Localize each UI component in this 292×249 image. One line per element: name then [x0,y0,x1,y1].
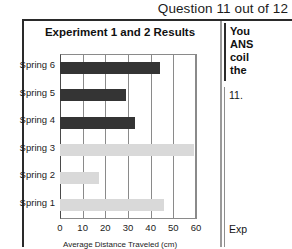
chart-row: Spring 3 [60,137,196,165]
chart-bar [60,199,164,211]
chart-x-axis-label: Average Distance Traveled (cm) [24,240,216,249]
chart-category-label: Spring 4 [20,114,55,125]
chart-category-label: Spring 5 [20,87,55,98]
chart-bar [60,62,160,74]
x-tick-label: 60 [191,222,202,233]
column-divider [220,21,222,247]
chart-bar [60,144,194,156]
chart-bar [60,117,135,129]
chart-title: Experiment 1 and 2 Results [24,26,216,38]
chart-category-label: Spring 6 [20,59,55,70]
chart-category-label: Spring 1 [20,197,55,208]
chart-row: Spring 5 [60,82,196,110]
chart-bar [60,172,99,184]
x-tick-label: 50 [168,222,179,233]
chart-plot-area: Spring 6Spring 5Spring 4Spring 3Spring 2… [60,54,196,219]
question-column: You ANS coil the 11. Exp [220,21,292,247]
chart-category-label: Spring 2 [20,169,55,180]
bar-chart-panel: Experiment 1 and 2 Results Spring 6Sprin… [24,21,216,247]
instruction-line: You [230,25,292,38]
x-tick-label: 30 [123,222,134,233]
instruction-line: coil [230,51,292,64]
question-block: 11. Exp [224,87,292,247]
chart-category-label: Spring 3 [20,142,55,153]
instruction-line: ANS [230,38,292,51]
question-footer-text: Exp [229,223,247,235]
chart-row: Spring 4 [60,109,196,137]
instruction-line: the [230,64,292,77]
gridline [196,54,197,219]
question-number: 11. [229,89,292,101]
chart-bars: Spring 6Spring 5Spring 4Spring 3Spring 2… [60,54,196,219]
chart-row: Spring 6 [60,54,196,82]
instruction-block: You ANS coil the [224,23,292,81]
chart-bar [60,89,126,101]
x-tick-label: 0 [57,222,62,233]
page-title: Question 11 out of 12 [158,1,288,16]
x-tick-label: 20 [100,222,111,233]
chart-row: Spring 1 [60,192,196,220]
chart-row: Spring 2 [60,164,196,192]
x-tick-label: 10 [77,222,88,233]
worksheet-header: Question 11 out of 12 [0,0,292,19]
x-tick-label: 40 [145,222,156,233]
